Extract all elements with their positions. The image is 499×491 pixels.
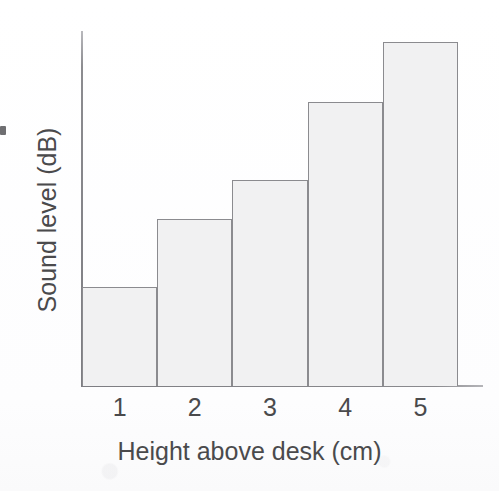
bar-series [82, 31, 458, 386]
bar [232, 180, 307, 386]
figure-edge-mark [0, 126, 6, 135]
bar [383, 42, 458, 386]
x-axis-title: Height above desk (cm) [0, 434, 499, 468]
x-tick-label: 1 [82, 392, 157, 422]
bar [82, 287, 157, 386]
x-tick-label: 2 [157, 392, 232, 422]
bar-chart-figure: 12345 Height above desk (cm) Sound level… [0, 0, 499, 491]
x-axis-tick-labels: 12345 [82, 392, 458, 422]
plot-area [81, 31, 483, 387]
bar [157, 219, 232, 386]
x-tick-label: 5 [383, 392, 458, 422]
bar [308, 102, 383, 386]
x-tick-label: 4 [308, 392, 383, 422]
x-tick-label: 3 [232, 392, 307, 422]
y-axis-title: Sound level (dB) [32, 85, 62, 355]
